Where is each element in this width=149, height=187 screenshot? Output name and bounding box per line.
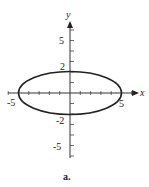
y-axis-arrow-icon: [67, 21, 73, 28]
x-axis-arrow-icon: [132, 90, 139, 96]
x-axis-label: x: [139, 87, 145, 98]
ellipse-graph: y x 5 2 -2 -5 -5 5 a.: [0, 0, 149, 187]
x-tick-label-5: 5: [119, 98, 124, 109]
y-tick-label-2: 2: [60, 61, 65, 72]
y-axis-label: y: [65, 9, 71, 20]
figure-caption: a.: [63, 171, 71, 182]
y-tick-label-neg2: -2: [56, 115, 64, 126]
y-tick-label-neg5: -5: [53, 141, 61, 152]
y-tick-label-5: 5: [59, 35, 64, 46]
x-tick-label-neg5: -5: [7, 97, 15, 108]
